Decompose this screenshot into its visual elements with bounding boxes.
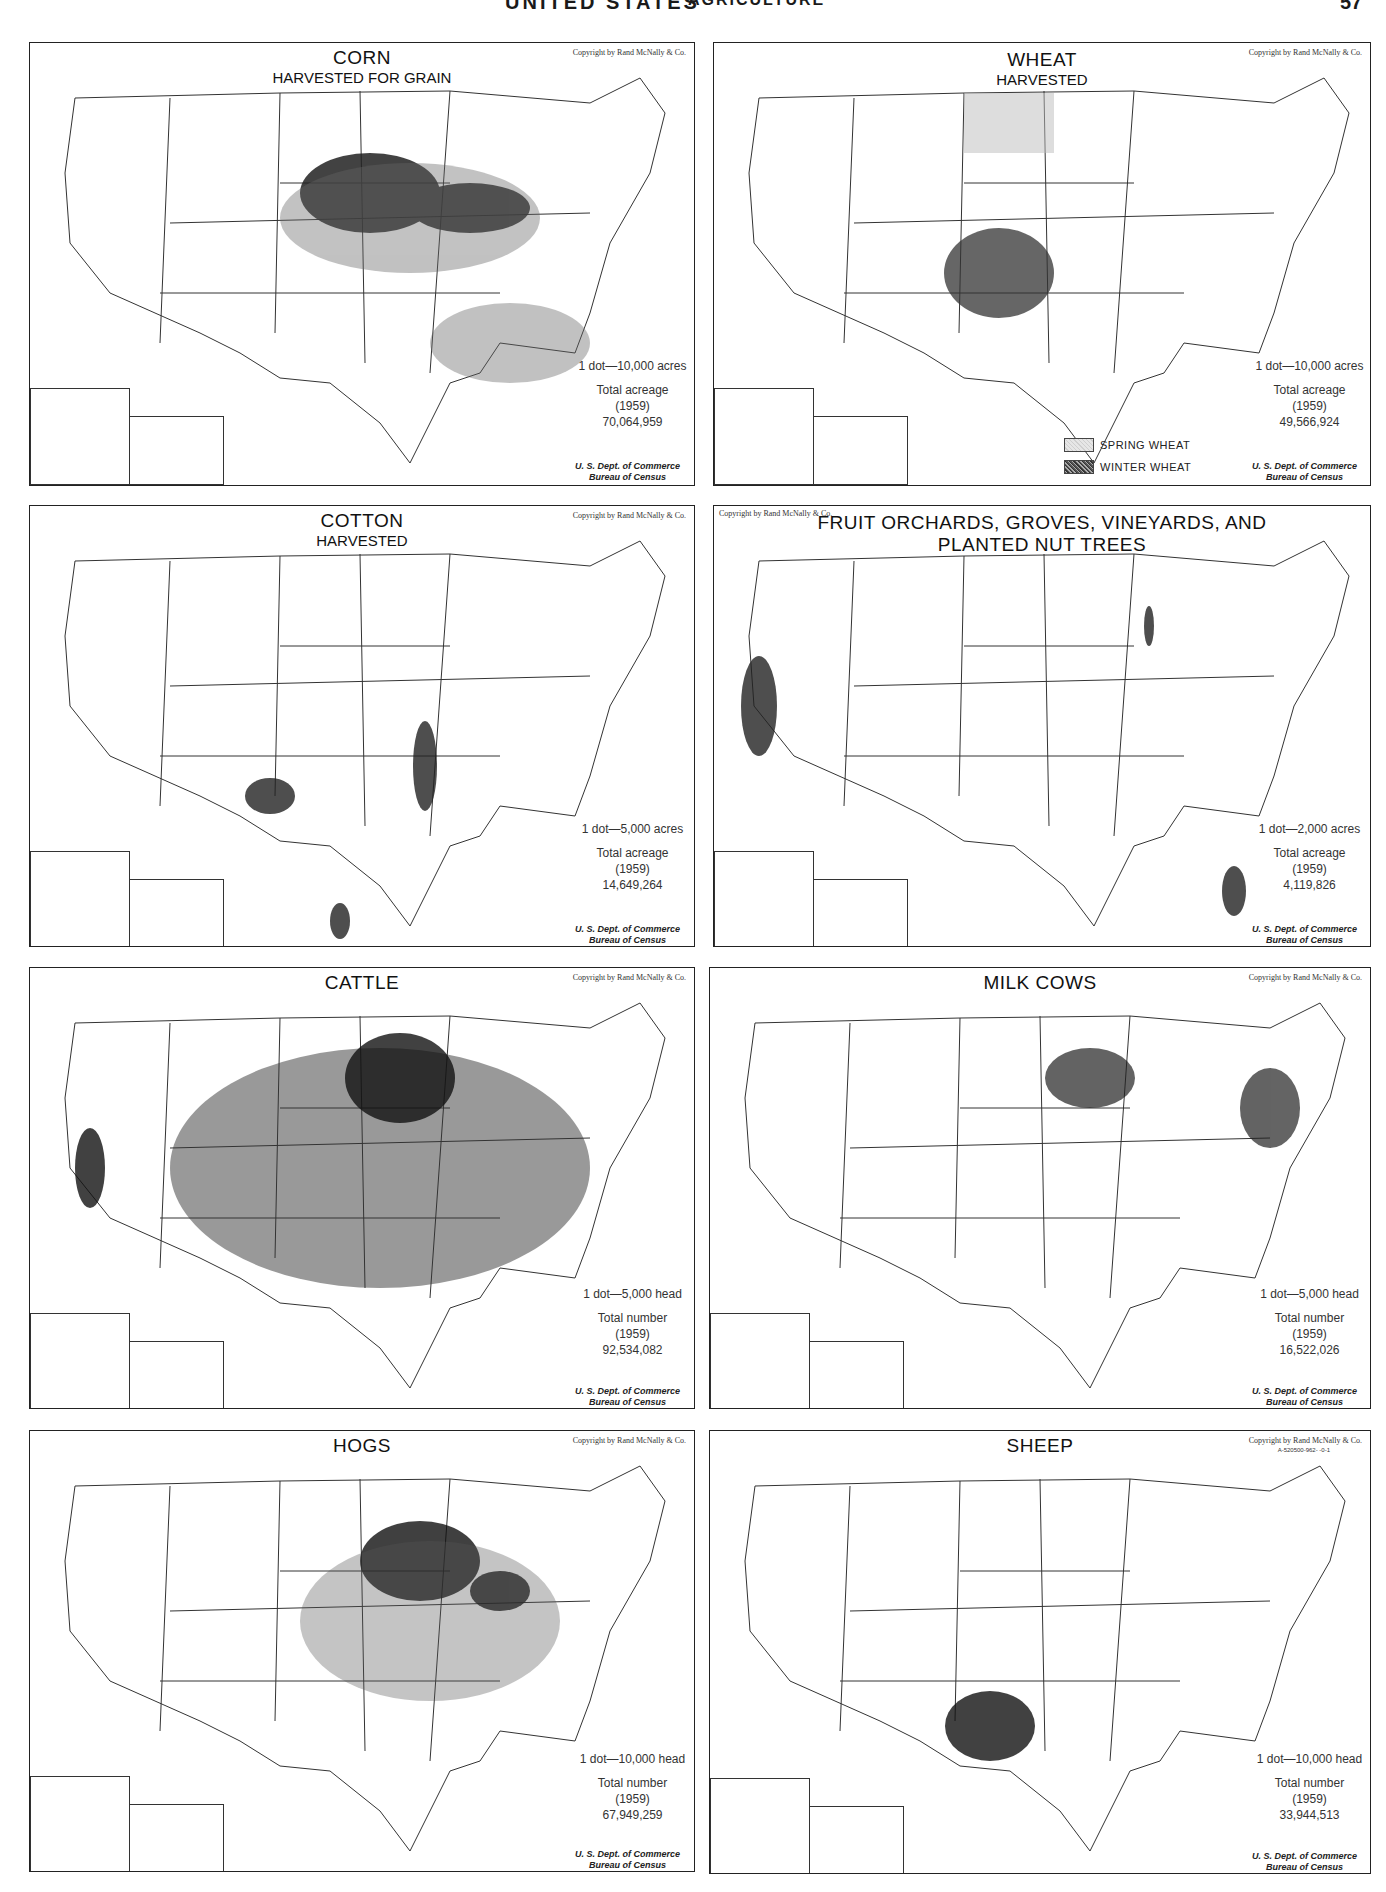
map-panel-cattle: CATTLE Copyright by Rand McNally & Co. 1… [29, 967, 695, 1409]
total-label: Total number [1247, 1775, 1371, 1791]
hawaii-inset [129, 879, 224, 947]
dot-scale: 1 dot—10,000 acres [570, 358, 695, 374]
map-subtitle: HARVESTED [714, 71, 1370, 88]
map-legend: 1 dot—5,000 acres Total acreage (1959) 1… [570, 821, 695, 893]
map-legend: 1 dot—10,000 head Total number (1959) 33… [1247, 1751, 1371, 1823]
total-year: (1959) [1247, 1791, 1371, 1807]
hawaii-inset [809, 1341, 904, 1409]
copyright-note: Copyright by Rand McNally & Co. [1249, 973, 1362, 982]
legend-spring-wheat: SPRING WHEAT [1064, 434, 1191, 456]
copyright-note: Copyright by Rand McNally & Co. [573, 48, 686, 57]
total-year: (1959) [570, 1791, 695, 1807]
wheat-type-legend: SPRING WHEAT WINTER WHEAT [1064, 434, 1191, 478]
total-label: Total number [570, 1775, 695, 1791]
alaska-inset [30, 851, 130, 947]
dot-scale: 1 dot—5,000 acres [570, 821, 695, 837]
total-label: Total number [1247, 1310, 1371, 1326]
source-note: U. S. Dept. of Commerce Bureau of Census [1237, 1386, 1371, 1408]
winter-wheat-swatch [1064, 460, 1094, 474]
dot-scale: 1 dot—2,000 acres [1247, 821, 1371, 837]
total-value: 4,119,826 [1247, 877, 1371, 893]
map-legend: 1 dot—10,000 acres Total acreage (1959) … [1247, 358, 1371, 430]
map-legend: 1 dot—10,000 head Total number (1959) 67… [570, 1751, 695, 1823]
map-panel-hogs: HOGS Copyright by Rand McNally & Co. 1 d… [29, 1430, 695, 1872]
map-title-line1: FRUIT ORCHARDS, GROVES, VINEYARDS, AND [714, 512, 1370, 534]
source-note: U. S. Dept. of Commerce Bureau of Census [1237, 1851, 1371, 1873]
source-note: U. S. Dept. of Commerce Bureau of Census [560, 461, 695, 483]
source-note: U. S. Dept. of Commerce Bureau of Census [560, 1849, 695, 1871]
map-legend: 1 dot—2,000 acres Total acreage (1959) 4… [1247, 821, 1371, 893]
page-header: UNITED STATES AGRICULTURE 57 [0, 0, 1386, 14]
total-value: 67,949,259 [570, 1807, 695, 1823]
alaska-inset [714, 388, 814, 485]
hawaii-inset [129, 1341, 224, 1409]
copyright-note: Copyright by Rand McNally & Co. [1249, 1436, 1362, 1445]
map-panel-sheep: SHEEP Copyright by Rand McNally & Co. A-… [709, 1430, 1371, 1874]
alaska-inset [30, 1313, 130, 1409]
source-note: U. S. Dept. of Commerce Bureau of Census [560, 1386, 695, 1408]
hawaii-inset [813, 879, 908, 947]
spring-wheat-swatch [1064, 438, 1094, 452]
copyright-note: Copyright by Rand McNally & Co. [573, 511, 686, 520]
hawaii-inset [129, 1804, 224, 1872]
alaska-inset [714, 851, 814, 947]
total-label: Total acreage [1247, 845, 1371, 861]
map-legend: 1 dot—5,000 head Total number (1959) 16,… [1247, 1286, 1371, 1358]
alaska-inset [30, 388, 130, 485]
source-note: U. S. Dept. of Commerce Bureau of Census [560, 924, 695, 946]
total-value: 92,534,082 [570, 1342, 695, 1358]
page-header-subtitle: AGRICULTURE [688, 0, 825, 9]
total-year: (1959) [1247, 398, 1371, 414]
total-label: Total acreage [1247, 382, 1371, 398]
source-note: U. S. Dept. of Commerce Bureau of Census [1237, 924, 1371, 946]
page-header-title: UNITED STATES [505, 0, 700, 14]
total-value: 33,944,513 [1247, 1807, 1371, 1823]
copyright-note: Copyright by Rand McNally & Co. [573, 1436, 686, 1445]
dot-scale: 1 dot—10,000 acres [1247, 358, 1371, 374]
total-year: (1959) [1247, 1326, 1371, 1342]
page-number: 57 [1340, 0, 1362, 14]
total-year: (1959) [570, 861, 695, 877]
dot-scale: 1 dot—10,000 head [570, 1751, 695, 1767]
copyright-note: Copyright by Rand McNally & Co. [1249, 48, 1362, 57]
map-legend: 1 dot—10,000 acres Total acreage (1959) … [570, 358, 695, 430]
map-subtitle: HARVESTED FOR GRAIN [30, 69, 694, 86]
total-year: (1959) [570, 1326, 695, 1342]
dot-scale: 1 dot—10,000 head [1247, 1751, 1371, 1767]
map-panel-milk-cows: MILK COWS Copyright by Rand McNally & Co… [709, 967, 1371, 1409]
hawaii-inset [813, 416, 908, 485]
hawaii-inset [809, 1806, 904, 1874]
plate-code: A-520500-962- -0-1 [1278, 1447, 1330, 1453]
map-panel-cotton: COTTON HARVESTED Copyright by Rand McNal… [29, 505, 695, 947]
map-panel-fruit-orchards: Copyright by Rand McNally & Co. FRUIT OR… [713, 505, 1371, 947]
total-value: 16,522,026 [1247, 1342, 1371, 1358]
total-year: (1959) [1247, 861, 1371, 877]
hawaii-inset [129, 416, 224, 485]
total-value: 49,566,924 [1247, 414, 1371, 430]
map-panel-wheat: WHEAT HARVESTED Copyright by Rand McNall… [713, 42, 1371, 486]
alaska-inset [710, 1778, 810, 1874]
map-title-line2: PLANTED NUT TREES [714, 534, 1370, 556]
map-panel-corn: CORN HARVESTED FOR GRAIN Copyright by Ra… [29, 42, 695, 486]
total-value: 70,064,959 [570, 414, 695, 430]
alaska-inset [30, 1776, 130, 1872]
total-value: 14,649,264 [570, 877, 695, 893]
map-legend: 1 dot—5,000 head Total number (1959) 92,… [570, 1286, 695, 1358]
total-label: Total number [570, 1310, 695, 1326]
total-year: (1959) [570, 398, 695, 414]
total-label: Total acreage [570, 382, 695, 398]
alaska-inset [710, 1313, 810, 1409]
source-note: U. S. Dept. of Commerce Bureau of Census [1237, 461, 1371, 483]
total-label: Total acreage [570, 845, 695, 861]
map-subtitle: HARVESTED [30, 532, 694, 549]
copyright-note: Copyright by Rand McNally & Co. [573, 973, 686, 982]
dot-scale: 1 dot—5,000 head [1247, 1286, 1371, 1302]
dot-scale: 1 dot—5,000 head [570, 1286, 695, 1302]
legend-winter-wheat: WINTER WHEAT [1064, 456, 1191, 478]
